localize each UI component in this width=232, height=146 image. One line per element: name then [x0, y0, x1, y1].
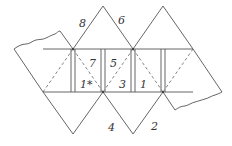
label-5: 5 [110, 57, 117, 70]
right-torn-edge [175, 92, 222, 110]
label-8: 8 [79, 17, 86, 30]
triangle-6-outline [133, 6, 193, 49]
fold-diagonal [133, 49, 163, 92]
right-flap-lower-edge [163, 92, 175, 110]
label-3: 3 [119, 78, 126, 91]
left-flap-lower-edge [14, 49, 43, 92]
vertex-dot [72, 48, 74, 50]
bottom-triangles [43, 92, 163, 134]
triangle-4-outline [43, 92, 103, 134]
vertex-dot [162, 91, 164, 93]
band-edges [43, 49, 193, 92]
label-1-star: 1* [80, 78, 93, 91]
label-4: 4 [107, 121, 115, 134]
label-7: 7 [89, 57, 96, 70]
fold-diagonal [103, 49, 133, 92]
label-1: 1 [140, 78, 147, 91]
left-torn-edge [14, 31, 60, 49]
left-flap-upper-edge [60, 31, 73, 49]
net-diagram: 8 6 7 5 1* 3 1 4 2 [0, 0, 232, 146]
left-fold-line [43, 49, 73, 92]
right-slant-edge [193, 49, 222, 92]
left-flap [14, 31, 73, 92]
vertex-dot [132, 48, 134, 50]
right-fold-line [163, 49, 193, 92]
label-6: 6 [118, 14, 125, 27]
label-2: 2 [150, 120, 158, 133]
vertex-dot [102, 91, 104, 93]
